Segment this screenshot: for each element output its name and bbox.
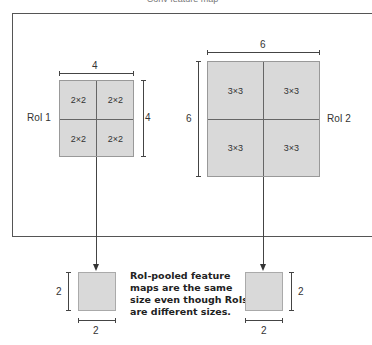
arrow-down-icon	[260, 264, 266, 271]
roi2-height-dimension-line	[198, 61, 199, 177]
roi2-cell: 3×3	[264, 62, 319, 119]
roi2-cell: 3×3	[264, 120, 319, 176]
roi1-cell: 2×2	[97, 81, 134, 119]
pooled-left-width-dimension-line	[78, 320, 116, 321]
diagram-title: Conv feature map	[0, 0, 365, 4]
note-line: RoI-pooled feature	[130, 270, 248, 282]
pooled-left-width-label: 2	[93, 325, 99, 336]
roi1-width-label: 4	[92, 60, 98, 71]
roi1-cell: 2×2	[60, 81, 97, 119]
explanation-note: RoI-pooled feature maps are the same siz…	[130, 270, 248, 318]
roi1-cell: 2×2	[60, 120, 97, 157]
roi1-label: RoI 1	[27, 112, 51, 123]
note-line: maps are the same	[130, 282, 248, 294]
roi1-width-dimension-line	[59, 73, 134, 74]
roi1-height-dimension-line	[143, 80, 144, 157]
note-line: size even though RoIs	[130, 294, 248, 306]
roi2-cell: 3×3	[208, 62, 263, 119]
pooled-map-left	[78, 272, 116, 311]
roi2-height-label: 6	[186, 113, 192, 124]
roi2-width-label: 6	[260, 39, 266, 50]
roi1-to-pooled-connector	[96, 157, 97, 265]
pooled-right-width-label: 2	[261, 325, 267, 336]
roi2-cell: 3×3	[208, 120, 263, 176]
pooled-left-height-label: 2	[56, 286, 62, 297]
arrow-down-icon	[93, 264, 99, 271]
pooled-left-height-dimension-line	[68, 272, 69, 311]
roi2-box: 3×3 3×3 3×3 3×3	[207, 61, 320, 177]
roi1-height-label: 4	[145, 112, 151, 123]
roi2-label: RoI 2	[327, 113, 351, 124]
roi2-width-dimension-line	[207, 52, 320, 53]
pooled-right-height-label: 2	[298, 286, 304, 297]
roi1-box: 2×2 2×2 2×2 2×2	[59, 80, 134, 157]
note-line: are different sizes.	[130, 306, 248, 318]
roi1-cell: 2×2	[97, 120, 134, 157]
pooled-map-right	[245, 272, 283, 311]
pooled-right-width-dimension-line	[245, 320, 283, 321]
roi2-to-pooled-connector	[263, 177, 264, 265]
pooled-right-height-dimension-line	[291, 272, 292, 311]
